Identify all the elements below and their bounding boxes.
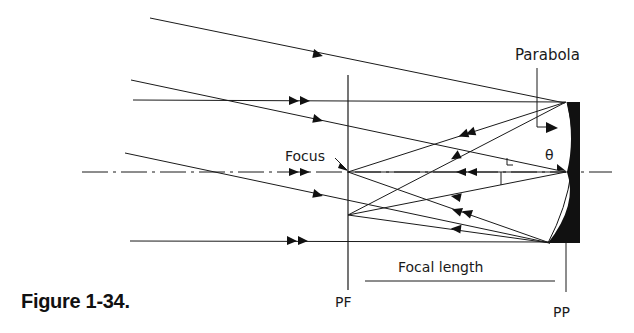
pf-label: PF bbox=[335, 295, 352, 309]
reflected-rays bbox=[348, 102, 566, 243]
double-arrows bbox=[287, 96, 310, 245]
parabola-pointer-arrow bbox=[546, 122, 558, 133]
pp-label: PP bbox=[553, 305, 570, 319]
oblique-rays bbox=[125, 18, 566, 243]
focus-label: Focus bbox=[285, 149, 325, 163]
figure-caption: Figure 1-34. bbox=[21, 290, 130, 313]
parabola-label: Parabola bbox=[515, 48, 580, 63]
focal-length-label: Focal length bbox=[398, 260, 483, 274]
theta-label: θ bbox=[545, 148, 554, 162]
